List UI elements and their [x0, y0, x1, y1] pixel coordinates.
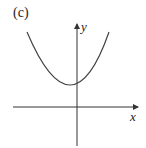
- y-axis-label: y: [79, 19, 87, 34]
- parabola-curve: [27, 32, 109, 85]
- x-axis-label: x: [129, 109, 136, 124]
- chart: y x: [0, 0, 146, 148]
